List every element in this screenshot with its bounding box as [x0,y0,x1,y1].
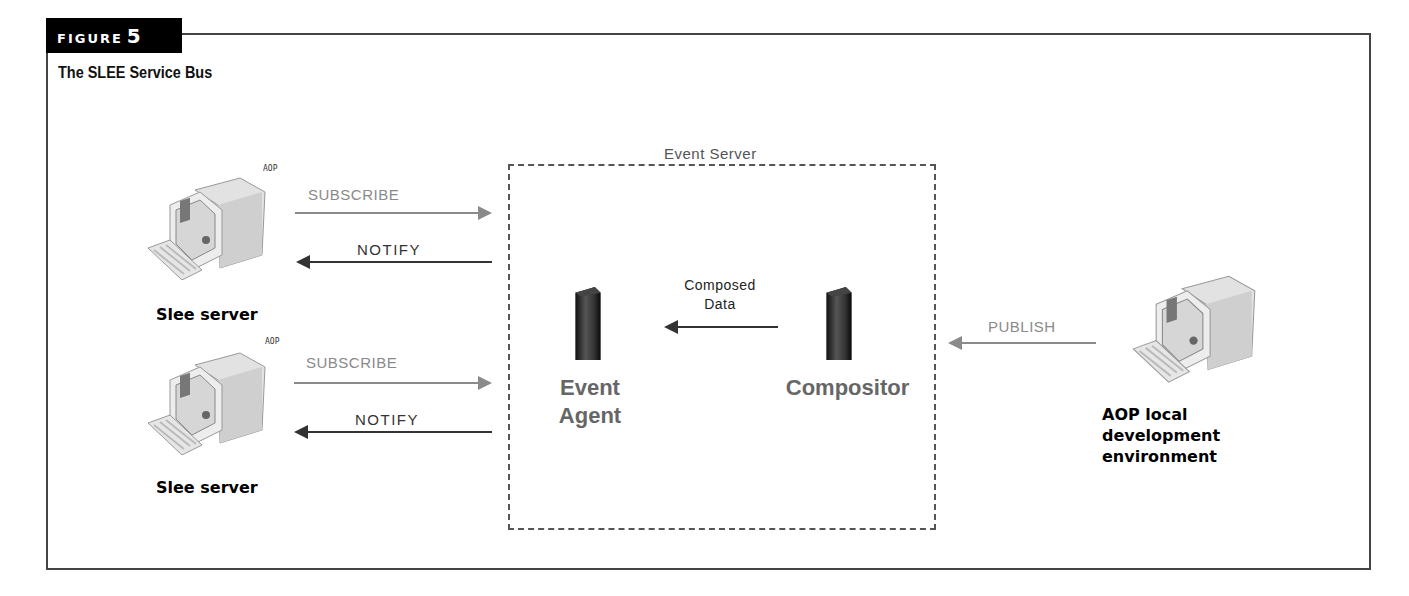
figure-tag: FIGURE5 [46,18,182,53]
composed-data-arrow [666,326,778,328]
figure-title: The SLEE Service Bus [58,63,212,83]
notify-label: NOTIFY [355,411,419,428]
publish-label: PUBLISH [988,318,1056,335]
figure-number: 5 [127,24,141,48]
figure-tag-word: FIGURE [57,31,123,46]
notify-label: NOTIFY [357,241,421,258]
aop-env-label: AOP local development environment [1102,404,1220,467]
aop-badge-icon: AOP [263,165,277,173]
server-tower-icon [573,287,603,360]
publish-arrow [950,342,1096,344]
desktop-computer-icon [140,345,270,455]
composed-data-label: Composed Data [660,276,780,314]
subscribe-label: SUBSCRIBE [308,186,399,203]
slee-server-label: Slee server [156,304,258,325]
notify-arrow [296,431,492,433]
desktop-computer-icon [140,170,270,280]
event-server-label: Event Server [664,145,757,162]
aop-badge-icon: AOP [265,338,279,346]
subscribe-arrow [295,212,490,214]
subscribe-arrow [294,382,490,384]
subscribe-label: SUBSCRIBE [306,354,397,371]
compositor-label: Compositor [765,374,930,402]
slee-server-label: Slee server [156,477,258,498]
desktop-computer-icon [1125,265,1260,385]
server-tower-icon [824,287,854,360]
notify-arrow [298,261,492,263]
event-agent-label: Event Agent [555,374,625,430]
